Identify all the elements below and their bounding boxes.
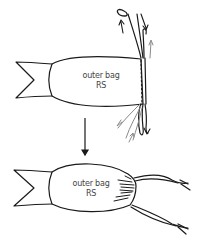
- gray-arrows: [117, 40, 153, 142]
- label-before-line1: outer bag: [74, 71, 128, 81]
- gray-arrow-left: [117, 120, 122, 126]
- drawstring-top: [128, 14, 141, 58]
- bag-tail-2: [14, 170, 52, 206]
- arrow-up-icon: [119, 20, 124, 33]
- label-before: outer bag RS: [74, 71, 128, 91]
- gray-arrow-up-top: [149, 40, 153, 58]
- bag-tail: [16, 62, 52, 98]
- bodkin-icon: [117, 10, 127, 16]
- down-arrow-icon: [82, 150, 88, 155]
- label-after: outer bag RS: [64, 179, 118, 199]
- diagram-canvas: [0, 0, 204, 239]
- arrow-down-icon-2: [144, 128, 150, 134]
- label-after-line1: outer bag: [64, 179, 118, 189]
- label-before-line2: RS: [74, 81, 128, 91]
- transition-arrow: [82, 118, 88, 155]
- arrow-down-icon: [141, 14, 148, 30]
- label-after-line2: RS: [64, 189, 118, 199]
